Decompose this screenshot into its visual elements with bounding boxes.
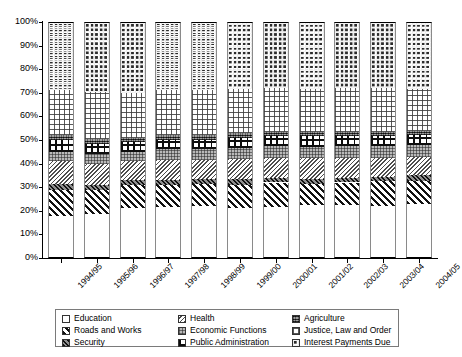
plot-area xyxy=(43,22,437,258)
x-axis-tick-label: 1999/00 xyxy=(255,262,283,290)
y-axis-tick-label: 0% xyxy=(0,253,38,262)
x-axis-tick-mark xyxy=(419,259,420,263)
bar-segment-health xyxy=(227,159,253,179)
legend-label: Agriculture xyxy=(304,314,345,323)
legend-column-1: EducationRoads and WorksSecurity xyxy=(62,313,141,349)
x-axis-tick-mark xyxy=(168,259,169,263)
bar-segment-agriculture xyxy=(299,132,325,137)
bar-segment-interestpaymentsdue xyxy=(299,22,325,89)
bar-segment-interestpaymentsdue xyxy=(406,22,432,89)
bar-segment-roadsandworks xyxy=(155,185,181,207)
x-axis-tick-label: 1997/98 xyxy=(183,262,211,290)
y-axis-tick-label: 10% xyxy=(0,229,38,238)
bar-segment-education xyxy=(263,207,289,258)
bar-segment-security xyxy=(120,180,146,185)
bar-segment-health xyxy=(191,160,217,179)
bar-segment-economicfunctions xyxy=(299,147,325,158)
bar-segment-publicadministration xyxy=(334,136,360,145)
bar-segment-roadsandworks xyxy=(263,183,289,208)
bar-1997-98 xyxy=(155,22,181,258)
bar-segment-justicelawandorder xyxy=(84,92,110,139)
bar-segment-health xyxy=(84,164,110,185)
legend-label: Security xyxy=(74,338,105,347)
bar-segment-security xyxy=(84,185,110,190)
x-axis-tick-label: 1995/96 xyxy=(112,262,140,290)
legend-item-security[interactable]: Security xyxy=(62,337,141,348)
x-axis-tick-label: 1998/99 xyxy=(219,262,247,290)
bar-segment-education xyxy=(120,208,146,258)
legend-item-education[interactable]: Education xyxy=(62,313,141,324)
y-axis-tick-label: 60% xyxy=(0,111,38,120)
y-axis-tick-label: 30% xyxy=(0,182,38,191)
bar-segment-health xyxy=(370,158,396,177)
bar-segment-economicfunctions xyxy=(84,154,110,163)
legend-swatch-education xyxy=(62,315,70,323)
bar-segment-economicfunctions xyxy=(120,152,146,161)
bar-segment-justicelawandorder xyxy=(227,89,253,133)
bar-segment-agriculture xyxy=(48,135,74,140)
bar-segment-justicelawandorder xyxy=(191,90,217,135)
legend-item-agriculture[interactable]: Agriculture xyxy=(292,313,391,324)
bar-segment-roadsandworks xyxy=(120,185,146,209)
x-axis-tick-mark xyxy=(276,259,277,263)
bar-1996-97 xyxy=(120,22,146,258)
legend-item-economicfunctions[interactable]: Economic Functions xyxy=(178,325,269,336)
legend-item-health[interactable]: Health xyxy=(178,313,269,324)
legend-item-roadsandworks[interactable]: Roads and Works xyxy=(62,325,141,336)
bar-segment-publicadministration xyxy=(120,142,146,151)
bar-1995-96 xyxy=(84,22,110,258)
legend-label: Roads and Works xyxy=(74,326,141,335)
x-axis-tick-label: 1996/97 xyxy=(148,262,176,290)
bar-segment-justicelawandorder xyxy=(263,88,289,132)
y-axis-tick-label: 40% xyxy=(0,159,38,168)
y-axis-tick-label: 100% xyxy=(0,17,38,26)
bar-segment-agriculture xyxy=(191,135,217,140)
bar-2000-01 xyxy=(263,22,289,258)
bar-segment-publicadministration xyxy=(155,140,181,149)
bar-segment-economicfunctions xyxy=(370,146,396,158)
bar-segment-publicadministration xyxy=(48,140,74,152)
x-axis-tick-mark xyxy=(347,259,348,263)
bar-segment-security xyxy=(263,178,289,183)
bar-segment-economicfunctions xyxy=(334,146,360,158)
bar-segment-security xyxy=(155,180,181,185)
legend-label: Justice, Law and Order xyxy=(304,326,391,335)
bar-2003-04 xyxy=(370,22,396,258)
bar-segment-publicadministration xyxy=(84,144,110,155)
bar-segment-agriculture xyxy=(120,138,146,143)
bar-segment-interestpaymentsdue xyxy=(120,22,146,93)
x-axis-tick-mark xyxy=(312,259,313,263)
bar-segment-security xyxy=(406,175,432,181)
bar-segment-security xyxy=(191,179,217,184)
legend-item-interestpaymentsdue[interactable]: Interest Payments Due xyxy=(292,337,391,348)
bar-segment-interestpaymentsdue xyxy=(191,22,217,90)
legend-swatch-economicfunctions xyxy=(178,327,186,335)
bar-segment-security xyxy=(227,179,253,185)
bar-segment-economicfunctions xyxy=(263,146,289,158)
legend-swatch-security xyxy=(62,339,70,347)
bar-segment-education xyxy=(227,208,253,258)
bar-segment-agriculture xyxy=(155,135,181,140)
bar-segment-roadsandworks xyxy=(48,190,74,216)
legend-item-justicelawandorder[interactable]: Justice, Law and Order xyxy=(292,325,391,336)
legend-swatch-agriculture xyxy=(292,315,300,323)
bar-segment-health xyxy=(155,160,181,180)
bar-segment-agriculture xyxy=(334,132,360,137)
bar-segment-publicadministration xyxy=(406,135,432,144)
bar-segment-roadsandworks xyxy=(334,183,360,205)
bar-segment-interestpaymentsdue xyxy=(84,22,110,92)
y-axis-tick-label: 80% xyxy=(0,64,38,73)
bar-segment-health xyxy=(263,158,289,178)
legend-item-publicadministration[interactable]: Public Administration xyxy=(178,337,269,348)
x-axis-tick-mark xyxy=(204,259,205,263)
bar-1998-99 xyxy=(191,22,217,258)
x-axis-tick-label: 2003/04 xyxy=(398,262,426,290)
bar-segment-justicelawandorder xyxy=(48,90,74,135)
legend-swatch-publicadministration xyxy=(178,339,186,347)
bar-segment-justicelawandorder xyxy=(299,89,325,131)
x-axis-tick-mark xyxy=(133,259,134,263)
bar-segment-publicadministration xyxy=(263,136,289,145)
y-axis-tick-label: 20% xyxy=(0,206,38,215)
bar-segment-education xyxy=(48,216,74,258)
